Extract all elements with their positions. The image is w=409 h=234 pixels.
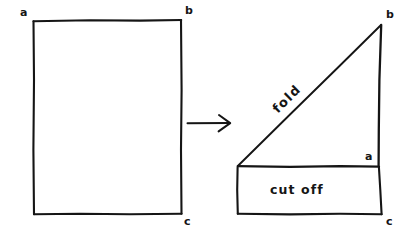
left-rect-label-a: a (20, 7, 28, 18)
rectangle-bottom-edge (34, 214, 182, 215)
cutoff-left-edge (237, 167, 238, 213)
cutoff-bottom-edge (238, 214, 382, 215)
rectangle-top-edge (34, 20, 182, 21)
right-fig-label-a: a (365, 151, 373, 162)
diagram-canvas: a b c b a c fold cut off (0, 0, 409, 234)
rectangle-left-edge (33, 21, 34, 214)
right-fig-label-b: b (386, 9, 394, 20)
cutoff-annotation-label: cut off (270, 184, 324, 197)
triangle-right-edge (379, 25, 382, 166)
cutoff-right-edge (379, 167, 382, 214)
fold-hypotenuse-edge (238, 25, 381, 166)
triangle-base-edge (238, 166, 379, 167)
left-rectangle-figure (33, 20, 181, 214)
left-rect-label-c: c (184, 216, 191, 227)
left-rect-label-b: b (185, 5, 193, 16)
transition-arrow (188, 115, 231, 131)
right-fig-label-c: c (386, 216, 393, 227)
rectangle-right-edge (181, 20, 182, 214)
diagram-drawing (0, 0, 409, 234)
